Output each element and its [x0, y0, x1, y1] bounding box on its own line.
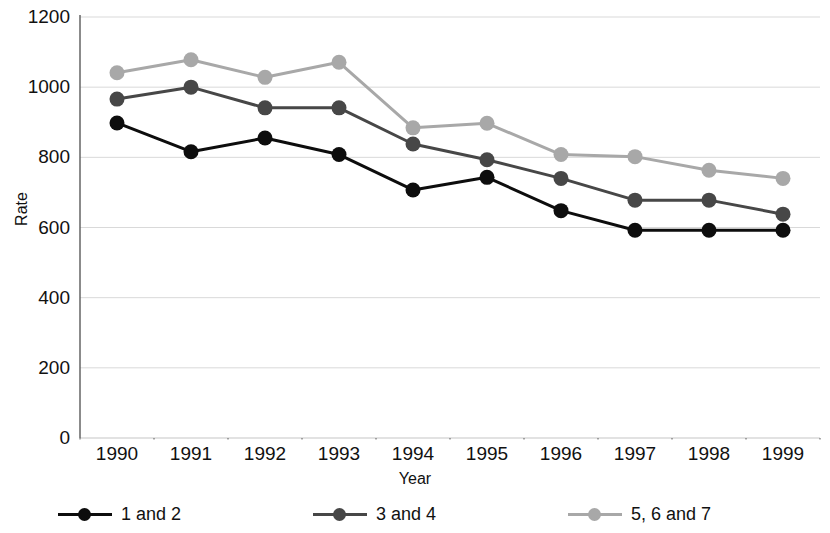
x-tick-label: 1997: [595, 443, 675, 465]
y-tick-label: 400: [8, 288, 70, 307]
data-point-marker[interactable]: [184, 52, 199, 67]
x-tick-label: 1998: [669, 443, 749, 465]
data-point-marker[interactable]: [258, 70, 273, 85]
data-point-marker[interactable]: [554, 203, 569, 218]
series-layer: [110, 52, 791, 238]
x-tick-label: 1994: [373, 443, 453, 465]
x-axis-tick-labels: 1990199119921993199419951996199719981999: [78, 443, 822, 473]
x-axis-title: Year: [0, 470, 830, 488]
plot-svg: [78, 8, 822, 440]
y-tick-label: 0: [8, 428, 70, 447]
legend-item[interactable]: 1 and 2: [58, 500, 181, 528]
data-point-marker[interactable]: [406, 120, 421, 135]
data-point-marker[interactable]: [332, 100, 347, 115]
y-tick-label: 800: [8, 147, 70, 166]
x-tick-label: 1993: [299, 443, 379, 465]
data-point-marker[interactable]: [702, 223, 717, 238]
data-point-marker[interactable]: [554, 147, 569, 162]
x-tick-label: 1999: [743, 443, 823, 465]
series-line: [117, 60, 783, 179]
legend-item[interactable]: 3 and 4: [313, 500, 436, 528]
data-point-marker[interactable]: [776, 223, 791, 238]
data-point-marker[interactable]: [406, 182, 421, 197]
data-point-marker[interactable]: [258, 100, 273, 115]
legend-marker-dot: [333, 508, 346, 521]
data-point-marker[interactable]: [184, 80, 199, 95]
chart-legend: 1 and 23 and 45, 6 and 7: [0, 500, 830, 533]
data-point-marker[interactable]: [480, 116, 495, 131]
data-point-marker[interactable]: [628, 193, 643, 208]
legend-item[interactable]: 5, 6 and 7: [568, 500, 711, 528]
circle-marker: [58, 505, 112, 523]
data-point-marker[interactable]: [628, 149, 643, 164]
data-point-marker[interactable]: [332, 55, 347, 70]
x-tick-label: 1996: [521, 443, 601, 465]
series-line: [117, 123, 783, 230]
plot-area: [78, 8, 822, 440]
legend-label: 1 and 2: [121, 505, 181, 523]
data-point-marker[interactable]: [776, 171, 791, 186]
circle-marker: [568, 505, 622, 523]
data-point-marker[interactable]: [258, 131, 273, 146]
legend-label: 5, 6 and 7: [631, 505, 711, 523]
data-point-marker[interactable]: [480, 152, 495, 167]
y-tick-label: 1000: [8, 77, 70, 96]
y-tick-label: 200: [8, 358, 70, 377]
data-point-marker[interactable]: [554, 171, 569, 186]
data-point-marker[interactable]: [110, 115, 125, 130]
x-tick-label: 1992: [225, 443, 305, 465]
data-point-marker[interactable]: [184, 144, 199, 159]
legend-marker-dot: [78, 508, 91, 521]
data-point-marker[interactable]: [332, 147, 347, 162]
circle-marker: [313, 505, 367, 523]
x-tick-label: 1995: [447, 443, 527, 465]
y-tick-label: 1200: [8, 7, 70, 26]
x-tick-label: 1991: [151, 443, 231, 465]
y-tick-label: 600: [8, 218, 70, 237]
x-tick-label: 1990: [77, 443, 157, 465]
legend-marker-dot: [588, 508, 601, 521]
series-line: [117, 87, 783, 214]
data-point-marker[interactable]: [110, 65, 125, 80]
data-point-marker[interactable]: [702, 193, 717, 208]
y-axis-tick-labels: 020040060080010001200: [0, 0, 70, 450]
data-point-marker[interactable]: [480, 170, 495, 185]
data-point-marker[interactable]: [110, 92, 125, 107]
data-point-marker[interactable]: [702, 163, 717, 178]
data-point-marker[interactable]: [776, 207, 791, 222]
data-point-marker[interactable]: [628, 223, 643, 238]
legend-label: 3 and 4: [376, 505, 436, 523]
data-point-marker[interactable]: [406, 137, 421, 152]
line-chart: Rate 020040060080010001200 1990199119921…: [0, 0, 830, 533]
